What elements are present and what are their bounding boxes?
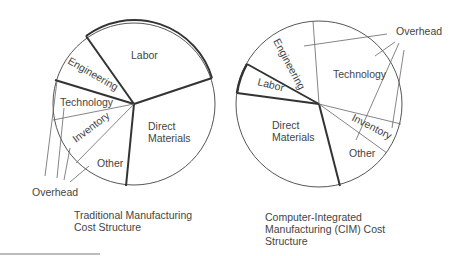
- cim-label-materials: Materials: [272, 131, 315, 143]
- bottom-rule: [0, 253, 100, 255]
- cim-caption-line2: Manufacturing (CIM) Cost: [265, 223, 385, 235]
- traditional-label-overhead: Overhead: [32, 186, 78, 198]
- traditional-label-labor: Labor: [131, 49, 158, 61]
- traditional-pie: Labor Engineering Technology Inventory O…: [32, 20, 215, 198]
- cim-label-overhead: Overhead: [396, 25, 442, 37]
- diagram-canvas: Labor Engineering Technology Inventory O…: [0, 0, 465, 256]
- materials-other-divider: [126, 104, 134, 186]
- cim-label-technology: Technology: [333, 68, 387, 80]
- labor-materials-divider: [237, 93, 319, 104]
- traditional-label-materials: Materials: [148, 132, 191, 144]
- traditional-label-inventory: Inventory: [70, 109, 112, 145]
- cim-labor-arc: [237, 64, 247, 93]
- cim-label-direct: Direct: [272, 119, 300, 131]
- traditional-caption-line2: Cost Structure: [74, 221, 192, 233]
- cim-caption-line3: Structure: [265, 235, 385, 247]
- traditional-label-direct: Direct: [148, 120, 176, 132]
- cim-label-other: Other: [349, 147, 376, 159]
- cim-overhead-leaders: [304, 34, 404, 140]
- engineering-technology-divider: [313, 21, 319, 104]
- cim-label-labor: Labor: [257, 75, 286, 93]
- labor-materials-divider: [134, 78, 212, 104]
- traditional-label-technology: Technology: [60, 96, 114, 108]
- cim-label-inventory: Inventory: [350, 111, 395, 142]
- cim-pie: Engineering Technology Labor Direct Mate…: [236, 21, 442, 187]
- traditional-caption-line1: Traditional Manufacturing: [74, 209, 192, 221]
- materials-other-divider: [319, 104, 340, 186]
- cim-caption-line1: Computer-Integrated: [265, 211, 385, 223]
- cim-caption: Computer-Integrated Manufacturing (CIM) …: [265, 211, 385, 247]
- traditional-caption: Traditional Manufacturing Cost Structure: [74, 209, 192, 233]
- traditional-label-other: Other: [97, 157, 124, 169]
